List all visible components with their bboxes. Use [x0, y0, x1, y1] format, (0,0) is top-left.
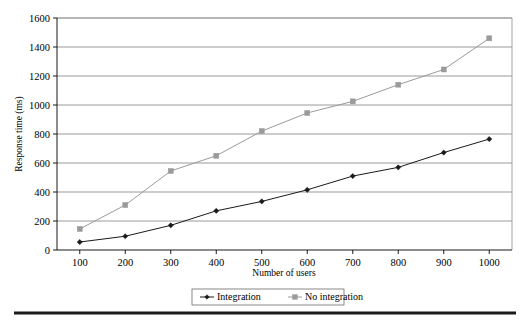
- x-axis-title: Number of users: [252, 268, 316, 278]
- data-point-marker: [293, 295, 298, 300]
- x-tick-label: 400: [208, 257, 224, 268]
- x-tick-label: 200: [117, 257, 133, 268]
- x-tick-label: 100: [72, 257, 88, 268]
- y-axis-title: Response time (ms): [14, 96, 25, 171]
- x-tick-label: 600: [299, 257, 315, 268]
- data-point-marker: [259, 129, 264, 134]
- y-tick-label: 1200: [29, 71, 50, 82]
- y-tick-label: 200: [34, 216, 50, 227]
- x-tick-label: 1000: [479, 257, 500, 268]
- data-point-marker: [396, 82, 401, 87]
- data-point-marker: [350, 99, 355, 104]
- x-axis-ticks: 1002003004005006007008009001000: [72, 250, 500, 268]
- x-tick-label: 300: [163, 257, 179, 268]
- data-point-marker: [168, 168, 173, 173]
- x-tick-label: 900: [436, 257, 452, 268]
- data-point-marker: [441, 67, 446, 72]
- x-tick-label: 800: [390, 257, 406, 268]
- y-tick-label: 0: [45, 245, 50, 256]
- y-tick-label: 1400: [29, 42, 50, 53]
- y-tick-label: 1000: [29, 100, 50, 111]
- y-tick-label: 600: [34, 158, 50, 169]
- y-axis-ticks: 02004006008001000120014001600: [29, 13, 57, 256]
- chart-figure: 02004006008001000120014001600 1002003004…: [0, 0, 530, 324]
- data-point-marker: [214, 153, 219, 158]
- y-tick-label: 1600: [29, 13, 50, 24]
- x-tick-label: 700: [345, 257, 361, 268]
- data-point-marker: [123, 203, 128, 208]
- y-tick-label: 400: [34, 187, 50, 198]
- y-tick-label: 800: [34, 129, 50, 140]
- chart-legend: IntegrationNo integration: [192, 289, 363, 305]
- x-tick-label: 500: [254, 257, 270, 268]
- data-point-marker: [77, 226, 82, 231]
- data-point-marker: [305, 110, 310, 115]
- data-point-marker: [487, 36, 492, 41]
- legend-item-label: No integration: [305, 291, 363, 302]
- response-time-line-chart: 02004006008001000120014001600 1002003004…: [0, 0, 530, 324]
- legend-item-label: Integration: [217, 291, 261, 302]
